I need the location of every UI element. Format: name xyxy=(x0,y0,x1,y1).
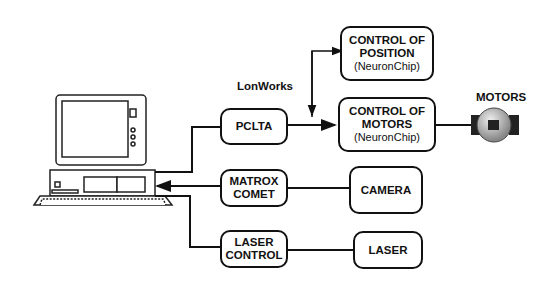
node-label: MOTORS xyxy=(362,118,412,131)
control-position-node: CONTROL OF POSITION (NeuronChip) xyxy=(340,26,434,81)
matrox-node: MATROX COMET xyxy=(220,169,288,207)
node-label: CONTROL OF xyxy=(349,34,425,47)
node-label: COMET xyxy=(233,188,275,201)
control-motors-node: CONTROL OF MOTORS (NeuronChip) xyxy=(338,97,436,152)
computer-icon xyxy=(34,95,172,205)
node-label: LASER xyxy=(369,244,408,257)
pclta-node: PCLTA xyxy=(220,108,288,145)
node-label: CAMERA xyxy=(361,184,411,197)
node-label: CONTROL xyxy=(226,249,283,262)
node-label: LASER xyxy=(235,236,274,249)
laser-control-node: LASER CONTROL xyxy=(220,230,288,268)
node-label: (NeuronChip) xyxy=(354,131,420,144)
node-label: (NeuronChip) xyxy=(354,60,420,73)
node-label: CONTROL OF xyxy=(349,105,425,118)
motors-label: MOTORS xyxy=(476,91,526,103)
node-label: POSITION xyxy=(360,47,415,60)
lonworks-label: LonWorks xyxy=(237,80,293,92)
laser-node: LASER xyxy=(353,231,423,269)
node-label: MATROX xyxy=(230,175,279,188)
node-label: PCLTA xyxy=(236,120,273,133)
camera-node: CAMERA xyxy=(349,166,423,214)
motor-icon xyxy=(471,108,519,142)
